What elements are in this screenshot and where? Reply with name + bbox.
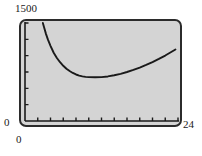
chart-figure: 1500 0 24 0: [0, 0, 202, 156]
x-axis-max-label: 24: [183, 119, 194, 130]
x-axis-zero-label: 0: [16, 134, 22, 145]
data-curve: [43, 23, 176, 77]
y-axis-max-label: 1500: [15, 3, 37, 14]
axes-group: [25, 22, 179, 121]
plot-frame: [19, 19, 182, 127]
y-axis-zero-label: 0: [4, 117, 10, 128]
plot-canvas: [21, 21, 180, 125]
curve-group: [43, 23, 176, 77]
